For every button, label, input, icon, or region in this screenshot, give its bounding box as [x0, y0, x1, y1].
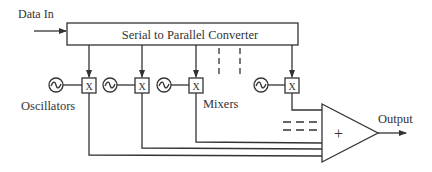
- sine-icon-1: [51, 82, 61, 88]
- mixer-4-symbol: X: [288, 81, 296, 92]
- sine-icon-4: [256, 82, 266, 88]
- summer: [322, 104, 378, 162]
- mixer-3-symbol: X: [192, 81, 200, 92]
- diagram-canvas: Data In Serial to Parallel Converter X X…: [0, 0, 432, 172]
- data-in-label: Data In: [18, 7, 54, 21]
- output-label: Output: [378, 112, 413, 126]
- mixer-2-symbol: X: [138, 81, 146, 92]
- summer-plus-symbol: +: [334, 125, 343, 142]
- converter-label: Serial to Parallel Converter: [122, 28, 259, 42]
- mixer-4-output: [292, 93, 322, 110]
- mixers-label: Mixers: [203, 97, 239, 111]
- mixer-1-symbol: X: [85, 81, 93, 92]
- oscillators-label: Oscillators: [21, 99, 75, 113]
- sine-icon-2: [105, 82, 115, 88]
- sine-icon-3: [159, 82, 169, 88]
